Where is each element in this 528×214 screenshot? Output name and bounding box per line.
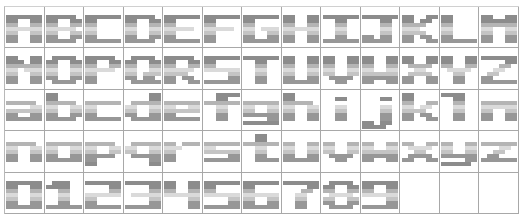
glyph-bitmap: [204, 93, 240, 129]
glyph-bitmap: [283, 56, 319, 84]
glyph-cell-lower-i: i: [321, 90, 361, 131]
glyph-cell-lower-y: y: [440, 131, 480, 172]
glyph-bitmap: [362, 56, 398, 84]
glyph-bitmap: [6, 134, 42, 170]
glyph-cell-t: T: [242, 48, 282, 89]
glyph-cell-lower-k: k: [400, 90, 440, 131]
glyph-cell-empty: [400, 173, 440, 214]
glyph-bitmap: [46, 15, 82, 43]
glyph-cell-c: C: [84, 7, 124, 48]
glyph-cell-m: M: [479, 7, 519, 48]
glyph-cell-lower-n: n: [5, 131, 45, 172]
glyph-bitmap: [46, 181, 82, 209]
glyph-bitmap: [441, 134, 477, 170]
glyph-cell-3: 3: [124, 173, 164, 214]
glyph-bitmap: [323, 181, 359, 209]
glyph-bitmap: [362, 93, 398, 129]
glyph-bitmap: [164, 93, 200, 129]
glyph-cell-lower-s: s: [203, 131, 243, 172]
glyph-bitmap: [402, 56, 438, 84]
glyph-bitmap: [46, 56, 82, 84]
glyph-bitmap: [441, 93, 477, 129]
glyph-cell-p: P: [84, 48, 124, 89]
glyph-cell-lower-g: g: [242, 90, 282, 131]
glyph-cell-lower-x: x: [400, 131, 440, 172]
glyph-cell-5: 5: [203, 173, 243, 214]
glyph-bitmap: [6, 181, 42, 209]
glyph-bitmap: [402, 15, 438, 43]
glyph-bitmap: [243, 56, 279, 84]
glyph-bitmap: [481, 93, 517, 129]
glyph-atlas-grid: ABCDEFGHIJKLMNOPQRSTUVWXYZabcdefghijklmn…: [4, 6, 519, 214]
glyph-cell-r: R: [163, 48, 203, 89]
glyph-bitmap: [85, 134, 121, 170]
glyph-cell-lower-e: e: [163, 90, 203, 131]
glyph-cell-empty: [479, 173, 519, 214]
glyph-bitmap: [323, 134, 359, 170]
glyph-cell-l: L: [440, 7, 480, 48]
glyph-cell-lower-d: d: [124, 90, 164, 131]
glyph-cell-lower-v: v: [321, 131, 361, 172]
glyph-cell-lower-z: z: [479, 131, 519, 172]
glyph-cell-lower-b: b: [45, 90, 85, 131]
glyph-cell-lower-p: p: [84, 131, 124, 172]
glyph-cell-e: E: [163, 7, 203, 48]
glyph-bitmap: [402, 134, 438, 170]
glyph-bitmap: [204, 181, 240, 209]
glyph-bitmap: [46, 93, 82, 129]
glyph-bitmap: [125, 134, 161, 170]
glyph-bitmap: [283, 134, 319, 170]
glyph-bitmap: [362, 134, 398, 170]
glyph-cell-lower-w: w: [361, 131, 401, 172]
glyph-cell-y: Y: [440, 48, 480, 89]
glyph-bitmap: [85, 56, 121, 84]
glyph-cell-f: F: [203, 7, 243, 48]
glyph-cell-lower-t: t: [242, 131, 282, 172]
glyph-bitmap: [441, 15, 477, 43]
glyph-bitmap: [85, 181, 121, 209]
glyph-bitmap: [125, 93, 161, 129]
glyph-cell-0: 0: [5, 173, 45, 214]
glyph-cell-lower-m: m: [479, 90, 519, 131]
glyph-cell-lower-a: a: [5, 90, 45, 131]
glyph-bitmap: [46, 134, 82, 170]
glyph-bitmap: [481, 15, 517, 43]
glyph-cell-a: A: [5, 7, 45, 48]
glyph-bitmap: [283, 181, 319, 209]
glyph-cell-lower-c: c: [84, 90, 124, 131]
glyph-bitmap: [362, 181, 398, 209]
glyph-bitmap: [243, 181, 279, 209]
glyph-bitmap: [204, 56, 240, 84]
glyph-cell-lower-l: l: [440, 90, 480, 131]
glyph-bitmap: [125, 56, 161, 84]
glyph-bitmap: [204, 15, 240, 43]
glyph-cell-lower-j: j: [361, 90, 401, 131]
glyph-bitmap: [323, 93, 359, 129]
glyph-bitmap: [164, 15, 200, 43]
glyph-bitmap: [6, 56, 42, 84]
glyph-cell-9: 9: [361, 173, 401, 214]
glyph-bitmap: [6, 15, 42, 43]
glyph-cell-s: S: [203, 48, 243, 89]
glyph-cell-7: 7: [282, 173, 322, 214]
glyph-bitmap: [243, 134, 279, 170]
glyph-cell-o: O: [45, 48, 85, 89]
glyph-bitmap: [441, 56, 477, 84]
glyph-bitmap: [283, 93, 319, 129]
glyph-bitmap: [481, 134, 517, 170]
glyph-cell-i: I: [321, 7, 361, 48]
glyph-cell-h: H: [282, 7, 322, 48]
glyph-bitmap: [323, 15, 359, 43]
glyph-cell-2: 2: [84, 173, 124, 214]
glyph-bitmap: [164, 181, 200, 209]
glyph-cell-q: Q: [124, 48, 164, 89]
glyph-cell-lower-h: h: [282, 90, 322, 131]
glyph-bitmap: [85, 15, 121, 43]
glyph-cell-lower-r: r: [163, 131, 203, 172]
glyph-bitmap: [164, 56, 200, 84]
glyph-cell-lower-o: o: [45, 131, 85, 172]
glyph-cell-lower-q: q: [124, 131, 164, 172]
glyph-cell-1: 1: [45, 173, 85, 214]
glyph-cell-b: B: [45, 7, 85, 48]
glyph-bitmap: [243, 15, 279, 43]
